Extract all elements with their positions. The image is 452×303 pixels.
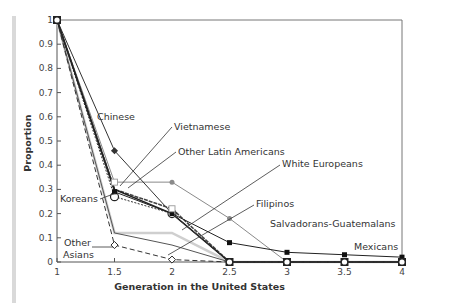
y-tick-label: 0.6 [39, 112, 54, 122]
label-vietnamese: Vietnamese [174, 121, 230, 132]
x-tick-label: 1.5 [107, 267, 121, 277]
y-tick-label: 0.1 [39, 233, 53, 243]
y-tick-label: 0.2 [39, 209, 53, 219]
x-tick-label: 2 [169, 267, 175, 277]
x-tick-label: 4 [399, 267, 405, 277]
y-tick-label: 1 [47, 15, 53, 25]
y-tick-label: 0.4 [39, 160, 54, 170]
label-mexicans: Mexicans [354, 241, 398, 252]
label-other-latin-americans: Other Latin Americans [178, 146, 285, 157]
label-other-asians-line1: Other [64, 237, 91, 248]
annotations: Chinese Vietnamese Other Latin Americans… [60, 111, 398, 260]
label-chinese: Chinese [97, 111, 135, 122]
y-axis-title: Proportion [22, 114, 33, 172]
y-tick-label: 0.7 [39, 88, 53, 98]
label-white-europeans: White Europeans [282, 158, 363, 169]
label-other-asians-line2: Asians [63, 249, 94, 260]
label-filipinos: Filipinos [256, 198, 294, 209]
y-tick-label: 0.3 [39, 184, 53, 194]
x-tick-label: 1 [54, 267, 60, 277]
y-tick-label: 0.5 [39, 136, 53, 146]
chart: 00.10.20.30.40.50.60.70.80.9111.522.533.… [0, 0, 452, 303]
x-tick-label: 3 [284, 267, 290, 277]
y-tick-label: 0.8 [39, 63, 54, 73]
label-salvadorans-guatemalans: Salvadorans-Guatemalans [270, 218, 396, 229]
x-tick-label: 2.5 [222, 267, 236, 277]
y-tick-label: 0.9 [39, 39, 54, 49]
y-tick-label: 0 [47, 257, 53, 267]
x-axis-title: Generation in the United States [114, 281, 285, 292]
label-koreans: Koreans [60, 193, 98, 204]
x-tick-label: 3.5 [337, 267, 351, 277]
